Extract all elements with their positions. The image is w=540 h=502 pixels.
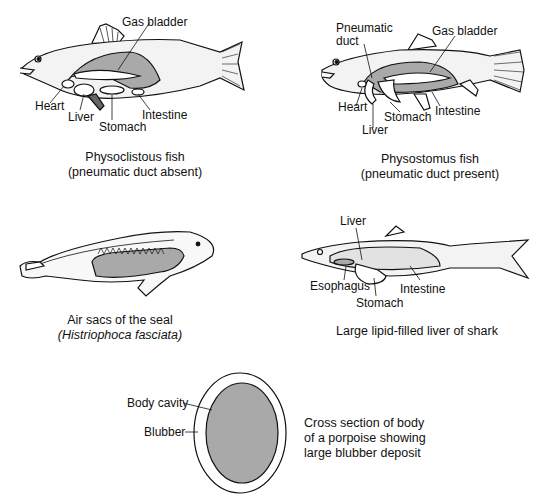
label-pneumatic-duct-line-2: duct — [336, 35, 393, 48]
caption-line-2: (pneumatic duct present) — [340, 167, 520, 182]
label-stomach: Stomach — [356, 297, 403, 310]
label-esophagus: Esophagus — [310, 280, 370, 293]
caption-line-2: of a porpoise showing — [304, 431, 434, 446]
caption-seal: Air sacs of the seal (Histriophoca fasci… — [55, 313, 185, 343]
label-body-cavity: Body cavity — [127, 397, 188, 410]
label-liver: Liver — [340, 215, 366, 228]
label-heart: Heart — [338, 101, 367, 114]
caption-shark: Large lipid-filled liver of shark — [336, 324, 516, 339]
species-name: (Histriophoca fasciata) — [58, 328, 182, 342]
caption-physoclistous: Physoclistous fish (pneumatic duct absen… — [45, 150, 225, 180]
diagram-artwork — [0, 0, 540, 502]
seal-illustration — [20, 232, 214, 296]
label-stomach: Stomach — [99, 121, 146, 134]
label-gas-bladder: Gas bladder — [122, 16, 187, 29]
caption-line-1: Cross section of body — [304, 416, 434, 431]
label-pneumatic-duct: Pneumatic duct — [336, 22, 393, 48]
label-stomach: Stomach — [384, 111, 431, 124]
caption-physostomus: Physostomus fish (pneumatic duct present… — [340, 152, 520, 182]
caption-line-2: (pneumatic duct absent) — [45, 165, 225, 180]
porpoise-cross-section — [183, 373, 286, 493]
label-blubber: Blubber — [144, 426, 185, 439]
label-intestine: Intestine — [435, 105, 480, 118]
label-intestine: Intestine — [142, 109, 187, 122]
caption-line-1: Physoclistous fish — [45, 150, 225, 165]
label-gas-bladder: Gas bladder — [432, 25, 497, 38]
caption-line-1: Air sacs of the seal — [55, 313, 185, 328]
label-liver: Liver — [362, 124, 388, 137]
caption-line-1: Physostomus fish — [340, 152, 520, 167]
label-heart: Heart — [35, 100, 64, 113]
label-liver: Liver — [68, 111, 94, 124]
label-intestine: Intestine — [400, 283, 445, 296]
caption-porpoise: Cross section of body of a porpoise show… — [304, 416, 434, 461]
caption-line-3: large blubber deposit — [304, 446, 434, 461]
caption-line-2: (Histriophoca fasciata) — [55, 328, 185, 343]
